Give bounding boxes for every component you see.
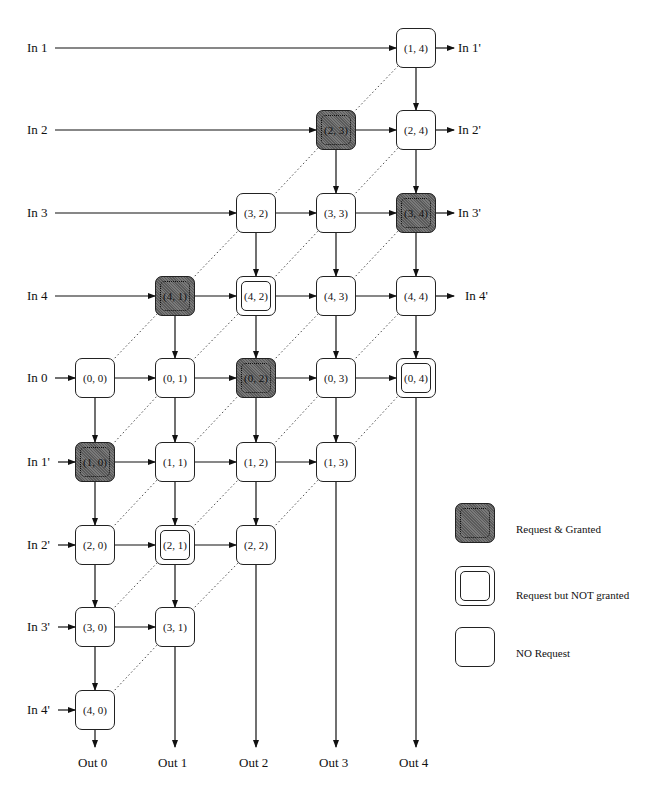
input-label-left: In 1 [27,40,48,56]
crosspoint-label: (4, 2) [244,290,268,302]
crosspoint-node: (3, 0) [75,607,115,647]
crosspoint-label: (0, 3) [324,372,348,384]
input-label-left: In 4' [27,702,50,718]
input-label-right: In 1' [458,40,481,56]
crosspoint-node: (3, 1) [155,607,195,647]
crosspoint-label: (1, 2) [244,456,268,468]
crosspoint-label: (4, 4) [404,290,428,302]
crosspoint-node: (2, 4) [396,110,436,150]
crosspoint-node: (2, 1) [155,525,195,565]
crosspoint-label: (1, 0) [83,456,107,468]
input-label-left: In 2 [27,122,48,138]
legend-label: NO Request [516,647,570,659]
input-label-right: In 3' [458,205,481,221]
output-label: Out 4 [399,755,428,771]
crosspoint-label: (0, 1) [163,372,187,384]
crosspoint-label: (3, 0) [83,621,107,633]
input-label-left: In 0 [27,370,48,386]
crosspoint-node: (0, 2) [236,358,276,398]
crosspoint-node: (1, 1) [155,442,195,482]
crosspoint-label: (2, 0) [83,539,107,551]
crosspoint-label: (0, 2) [244,372,268,384]
crosspoint-node: (0, 4) [396,358,436,398]
legend-label: Request but NOT granted [516,589,629,601]
crosspoint-label: (2, 3) [324,124,348,136]
crosspoint-node: (1, 2) [236,442,276,482]
crosspoint-node: (4, 3) [316,276,356,316]
crosspoint-node: (4, 4) [396,276,436,316]
input-label-right: In 4' [465,288,488,304]
crosspoint-node: (1, 0) [75,442,115,482]
input-label-left: In 1' [27,454,50,470]
crosspoint-label: (3, 2) [244,207,268,219]
input-label-left: In 4 [27,288,48,304]
crosspoint-label: (3, 4) [404,207,428,219]
crosspoint-node: (1, 3) [316,442,356,482]
crosspoint-node: (4, 2) [236,276,276,316]
crosspoint-node: (0, 0) [75,358,115,398]
crosspoint-label: (3, 1) [163,621,187,633]
output-label: Out 2 [239,755,268,771]
crosspoint-label: (1, 3) [324,456,348,468]
crosspoint-label: (3, 3) [324,207,348,219]
input-label-left: In 3' [27,619,50,635]
crosspoint-label: (1, 1) [163,456,187,468]
crosspoint-node: (0, 1) [155,358,195,398]
crosspoint-label: (2, 2) [244,539,268,551]
crosspoint-label: (0, 0) [83,372,107,384]
crosspoint-label: (4, 3) [324,290,348,302]
crosspoint-label: (4, 1) [163,290,187,302]
input-label-left: In 2' [27,537,50,553]
crosspoint-node: (3, 2) [236,193,276,233]
output-label: Out 1 [158,755,187,771]
legend-label: Request & Granted [516,523,601,535]
crosspoint-label: (2, 4) [404,124,428,136]
legend-swatch-notgranted [455,566,495,606]
crosspoint-node: (4, 0) [75,690,115,730]
crosspoint-label: (1, 4) [404,42,428,54]
input-label-right: In 2' [458,122,481,138]
output-label: Out 3 [319,755,348,771]
crosspoint-node: (0, 3) [316,358,356,398]
crosspoint-node: (3, 4) [396,193,436,233]
crosspoint-node: (4, 1) [155,276,195,316]
crosspoint-node: (2, 3) [316,110,356,150]
output-label: Out 0 [78,755,107,771]
crosspoint-node: (1, 4) [396,28,436,68]
crosspoint-label: (0, 4) [404,372,428,384]
legend-swatch-granted [455,503,495,543]
crosspoint-node: (2, 2) [236,525,276,565]
legend-swatch-none [455,627,495,667]
crosspoint-node: (2, 0) [75,525,115,565]
crosspoint-node: (3, 3) [316,193,356,233]
crosspoint-label: (4, 0) [83,704,107,716]
crosspoint-label: (2, 1) [163,539,187,551]
input-label-left: In 3 [27,205,48,221]
